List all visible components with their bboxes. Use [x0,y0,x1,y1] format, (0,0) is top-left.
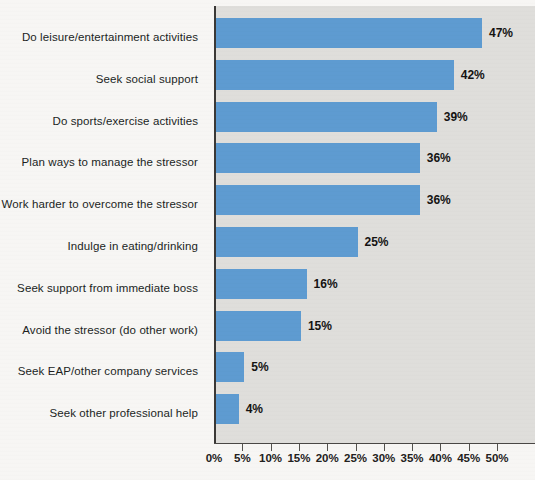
horizontal-bar-chart: Do leisure/entertainment activitiesSeek … [0,0,535,480]
category-label: Seek social support [0,72,198,86]
x-tick-label: 30% [372,452,395,464]
bar-value-label: 42% [461,60,485,90]
category-label: Seek EAP/other company services [0,364,198,378]
plot-area: 47%42%39%36%36%25%16%15%5%4% [214,6,535,443]
bar-value-label: 15% [308,311,332,341]
x-tick [242,444,243,451]
bar [216,394,239,424]
x-tick-label: 50% [485,452,508,464]
x-tick [469,444,470,451]
category-labels: Do leisure/entertainment activitiesSeek … [0,10,206,443]
x-tick [497,444,498,451]
bar [216,102,437,132]
category-label: Do sports/exercise activities [0,114,198,128]
bar [216,143,420,173]
bar-value-label: 39% [444,102,468,132]
x-tick-label: 40% [429,452,452,464]
bar-value-label: 36% [427,185,451,215]
bar-value-label: 47% [489,18,513,48]
bar [216,352,244,382]
x-axis-line [214,443,535,444]
x-tick-label: 35% [401,452,424,464]
bar [216,311,301,341]
x-tick-label: 0% [206,452,223,464]
bar [216,269,307,299]
x-tick-label: 45% [457,452,480,464]
bars-container: 47%42%39%36%36%25%16%15%5%4% [216,6,535,443]
bar-value-label: 16% [314,269,338,299]
category-label: Plan ways to manage the stressor [0,155,198,169]
x-tick [271,444,272,451]
x-tick [384,444,385,451]
x-tick-label: 10% [259,452,282,464]
bar [216,185,420,215]
category-label: Indulge in eating/drinking [0,239,198,253]
bar-value-label: 25% [365,227,389,257]
category-label: Seek support from immediate boss [0,281,198,295]
category-label: Seek other professional help [0,406,198,420]
x-tick-label: 25% [344,452,367,464]
x-tick-label: 15% [287,452,310,464]
category-label: Do leisure/entertainment activities [0,30,198,44]
bar [216,18,482,48]
x-tick [327,444,328,451]
x-tick [356,444,357,451]
x-tick [440,444,441,451]
bar-value-label: 36% [427,143,451,173]
bar [216,227,358,257]
bar-value-label: 4% [246,394,263,424]
x-tick [412,444,413,451]
category-label: Avoid the stressor (do other work) [0,323,198,337]
category-label: Work harder to overcome the stressor [0,197,198,211]
bar [216,60,454,90]
x-tick-label: 20% [316,452,339,464]
x-tick [299,444,300,451]
bar-value-label: 5% [251,352,268,382]
x-tick-label: 5% [234,452,251,464]
